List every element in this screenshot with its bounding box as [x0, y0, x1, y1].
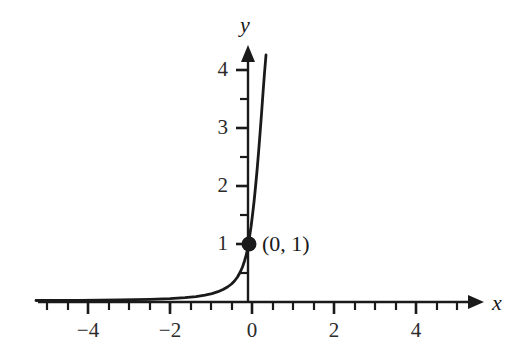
point-marker-0-1	[242, 237, 257, 252]
ytick-label-3: 3	[204, 117, 228, 138]
xtick-label-neg4: −4	[73, 320, 103, 341]
y-axis-label: y	[240, 14, 250, 36]
xtick-label-4: 4	[404, 320, 428, 341]
plot-canvas	[0, 0, 531, 363]
exponential-graph-figure: −4 −2 0 2 4 1 2 3 4 x y (0, 1)	[0, 0, 531, 363]
exponential-curve	[36, 55, 266, 301]
point-annotation-0-1: (0, 1)	[262, 233, 310, 255]
xtick-label-0: 0	[240, 320, 264, 341]
ytick-label-1: 1	[204, 233, 228, 254]
ytick-label-2: 2	[204, 175, 228, 196]
ytick-label-4: 4	[204, 59, 228, 80]
xtick-label-2: 2	[322, 320, 346, 341]
xtick-label-neg2: −2	[155, 320, 185, 341]
x-axis-ticks	[47, 302, 457, 314]
x-axis-label: x	[492, 292, 502, 314]
